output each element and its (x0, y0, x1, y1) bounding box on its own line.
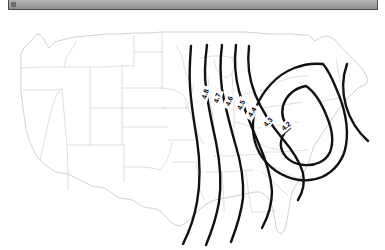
window-toolbar[interactable] (8, 0, 378, 10)
state-border-ca-nv (40, 90, 60, 160)
state-border-ok-tx-east (160, 142, 172, 170)
contour-map-svg: 4.8 4.7 4.6 4.5 4.4 (0, 12, 385, 250)
state-border-id-wy (64, 67, 90, 108)
state-border-tx-ok (124, 167, 160, 170)
state-border-fl-ga (252, 211, 276, 212)
state-border-mt-wy (90, 66, 134, 67)
state-border-or-ca (23, 89, 62, 90)
state-border-me-nh (336, 58, 342, 88)
contour-4-7 (205, 45, 221, 245)
state-border-wa-or (21, 67, 64, 68)
state-border-lake-ontario (278, 76, 308, 82)
basemap-coastline (21, 32, 368, 234)
state-border-nc-sc (268, 164, 300, 180)
state-border-id-mt (64, 41, 76, 67)
toolbar-surface (9, 0, 377, 9)
contour-map-figure: 4.8 4.7 4.6 4.5 4.4 (0, 12, 385, 250)
us-outline (21, 32, 368, 234)
contour-4-4 (248, 46, 304, 200)
contour-label-4-8: 4.8 (198, 85, 212, 103)
state-border-al-ga (246, 172, 252, 212)
state-border-ms-al (222, 172, 224, 212)
contour-label-4-7: 4.7 (210, 89, 224, 107)
state-border-tn-ms-al (206, 170, 254, 172)
state-border-nv-ut (62, 89, 67, 145)
basemap-state-borders (21, 32, 342, 212)
state-border-great-lakes-mi (214, 58, 234, 78)
state-border-mn-wi (176, 46, 190, 82)
contour-4-8 (183, 46, 200, 244)
toolbar-grip-handle[interactable] (11, 2, 16, 7)
state-border-az-ca (67, 145, 68, 190)
contour-lines-group (183, 45, 368, 245)
state-border-ne-ia (162, 88, 186, 108)
state-border-ne-states (318, 98, 340, 102)
figure-window: 4.8 4.7 4.6 4.5 4.4 (0, 0, 385, 250)
state-border-va-nc (264, 150, 308, 152)
